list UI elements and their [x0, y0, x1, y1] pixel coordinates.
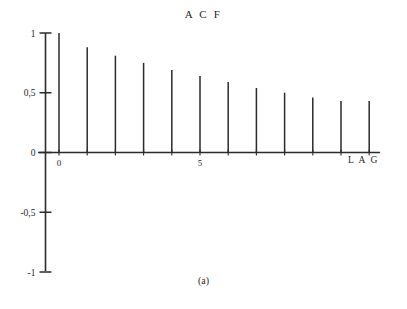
- x-axis-tick-labels: 05: [57, 158, 203, 168]
- y-tick-label: 0: [31, 148, 36, 158]
- y-tick-label: 1: [31, 29, 36, 39]
- x-tick-label: 5: [198, 158, 203, 168]
- y-axis-tick-labels: 10,50-0,5-1: [20, 29, 35, 278]
- figure-panel: A C F 10,50-0,5-1 05 L A G (a): [0, 0, 407, 309]
- acf-plot-svg: 10,50-0,5-1 05 L A G: [0, 0, 407, 309]
- acf-plot: 10,50-0,5-1 05 L A G: [0, 0, 407, 309]
- acf-spike-series: [59, 33, 369, 153]
- y-tick-label: -0,5: [20, 208, 35, 218]
- figure-caption: (a): [0, 275, 407, 286]
- x-tick-label: 0: [57, 158, 62, 168]
- y-tick-label: 0,5: [24, 88, 36, 98]
- x-axis-title: L A G: [348, 155, 379, 165]
